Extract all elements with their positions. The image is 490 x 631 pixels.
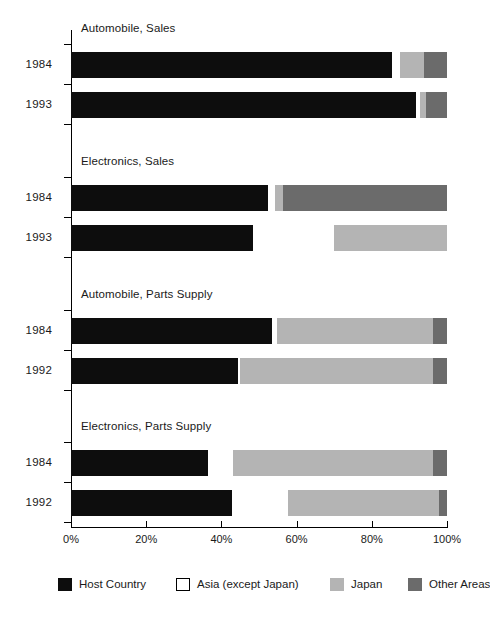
- segment-other-areas: [283, 185, 447, 211]
- legend-swatch-icon: [408, 578, 422, 591]
- segment-other-areas: [433, 358, 447, 384]
- segment-host-country: [71, 185, 268, 211]
- segment-japan: [277, 318, 433, 344]
- segment-asia: [392, 52, 400, 78]
- stacked-bar: [71, 225, 447, 251]
- category-label: 1984: [0, 456, 52, 469]
- category-tick: [64, 84, 71, 85]
- group-title: Automobile, Parts Supply: [81, 288, 213, 301]
- value-axis-label: 0%: [63, 533, 79, 546]
- category-label: 1984: [0, 324, 52, 337]
- segment-host-country: [71, 358, 238, 384]
- segment-japan: [275, 185, 283, 211]
- category-tick: [64, 310, 71, 311]
- group-title: Electronics, Sales: [81, 155, 174, 168]
- category-label: 1992: [0, 364, 52, 377]
- category-label: 1993: [0, 231, 52, 244]
- segment-host-country: [71, 92, 416, 118]
- value-axis-label: 60%: [286, 533, 308, 546]
- category-tick: [64, 217, 71, 218]
- category-tick: [64, 177, 71, 178]
- segment-japan: [288, 490, 439, 516]
- category-label: 1992: [0, 496, 52, 509]
- segment-host-country: [71, 450, 208, 476]
- group-title: Automobile, Sales: [81, 22, 175, 35]
- chart-legend: Host CountryAsia (except Japan)JapanOthe…: [58, 578, 468, 594]
- segment-host-country: [71, 225, 253, 251]
- legend-label: Asia (except Japan): [197, 578, 299, 591]
- segment-asia: [232, 490, 288, 516]
- value-axis-label: 80%: [361, 533, 383, 546]
- segment-host-country: [71, 52, 392, 78]
- category-tick: [64, 442, 71, 443]
- segment-other-areas: [426, 92, 447, 118]
- value-tick: [221, 521, 222, 528]
- legend-item: Asia (except Japan): [176, 578, 299, 591]
- stacked-bar: [71, 490, 447, 516]
- segment-japan: [334, 225, 447, 251]
- stacked-bar: [71, 358, 447, 384]
- legend-item: Other Areas: [408, 578, 490, 591]
- segment-japan: [400, 52, 424, 78]
- category-label: 1984: [0, 191, 52, 204]
- stacked-bar: [71, 185, 447, 211]
- segment-other-areas: [439, 490, 447, 516]
- value-axis-line: [71, 527, 448, 528]
- segment-other-areas: [424, 52, 447, 78]
- segment-asia: [253, 225, 334, 251]
- legend-label: Japan: [351, 578, 382, 591]
- segment-asia: [208, 450, 233, 476]
- value-axis-label: 40%: [210, 533, 232, 546]
- value-axis-label: 20%: [135, 533, 157, 546]
- stacked-bar: [71, 318, 447, 344]
- legend-item: Host Country: [58, 578, 146, 591]
- segment-host-country: [71, 490, 232, 516]
- category-tick: [64, 44, 71, 45]
- stacked-bar: [71, 450, 447, 476]
- segment-japan: [240, 358, 433, 384]
- legend-swatch-icon: [58, 578, 72, 591]
- value-tick: [447, 521, 448, 528]
- category-tick: [64, 390, 71, 391]
- stacked-bar: [71, 52, 447, 78]
- legend-swatch-icon: [176, 578, 190, 591]
- value-tick: [71, 521, 72, 528]
- category-tick: [64, 482, 71, 483]
- category-label: 1993: [0, 98, 52, 111]
- group-title: Electronics, Parts Supply: [81, 420, 211, 433]
- segment-other-areas: [433, 450, 447, 476]
- category-label: 1984: [0, 58, 52, 71]
- legend-item: Japan: [330, 578, 382, 591]
- legend-label: Other Areas: [429, 578, 490, 591]
- category-tick: [64, 350, 71, 351]
- category-tick: [64, 257, 71, 258]
- category-tick: [64, 522, 71, 523]
- value-tick: [146, 521, 147, 528]
- value-tick: [372, 521, 373, 528]
- stacked-bar: [71, 92, 447, 118]
- category-tick: [64, 124, 71, 125]
- value-tick: [297, 521, 298, 528]
- segment-asia: [268, 185, 275, 211]
- segment-host-country: [71, 318, 272, 344]
- value-axis-label: 100%: [433, 533, 461, 546]
- legend-swatch-icon: [330, 578, 344, 591]
- segment-japan: [233, 450, 433, 476]
- legend-label: Host Country: [79, 578, 146, 591]
- segment-other-areas: [433, 318, 447, 344]
